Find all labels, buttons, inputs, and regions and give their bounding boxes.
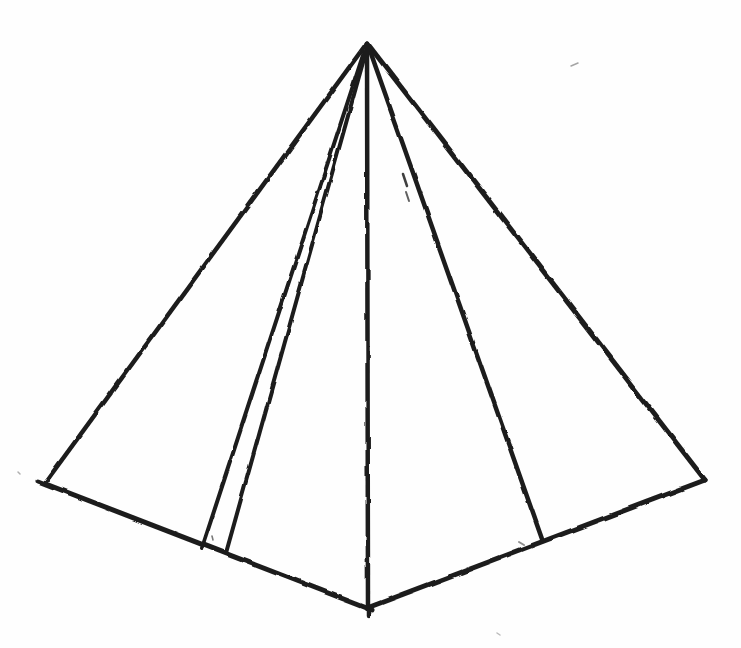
lateral-edge-inner-right [368, 45, 542, 539]
lateral-edge-center [367, 43, 368, 616]
lateral-edge-inner-left-a [202, 52, 364, 548]
lateral-edge-left [45, 43, 367, 483]
speck-near-inner-right-foot [519, 542, 524, 545]
speck-between-inner-lines [212, 536, 213, 540]
lateral-edge-inner-left-b [226, 48, 367, 553]
pyramid-figure [38, 43, 705, 616]
lateral-edge-right [367, 43, 705, 480]
scanned-drawing-page [0, 0, 741, 648]
base-edge-left [38, 481, 372, 610]
faint-dash-top-right [571, 63, 578, 66]
stray-pencil-marks [18, 63, 578, 635]
speck-below-base [497, 633, 500, 635]
pyramid-sketch-svg [0, 0, 741, 648]
base-edge-right [367, 480, 705, 608]
pencil-tick-a [403, 174, 407, 186]
speck-left-margin [18, 472, 20, 474]
pencil-tick-b [406, 192, 409, 201]
